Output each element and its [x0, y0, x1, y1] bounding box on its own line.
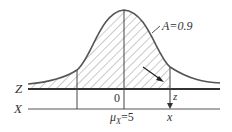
z-axis-label: Z — [15, 81, 23, 96]
area-label-leader — [152, 26, 160, 33]
z-origin-label: 0 — [114, 91, 120, 105]
x-axis-label: X — [13, 101, 23, 116]
z-value-label: z — [172, 90, 178, 102]
mean-label: μX=5 — [109, 110, 134, 126]
normal-distribution-diagram: A=0.9 Z X 0 μX=5 z x — [0, 0, 232, 132]
mean-value: =5 — [121, 110, 134, 124]
x-value-label: x — [166, 110, 173, 124]
mean-symbol: μ — [109, 110, 116, 124]
area-label: A=0.9 — [161, 19, 192, 33]
